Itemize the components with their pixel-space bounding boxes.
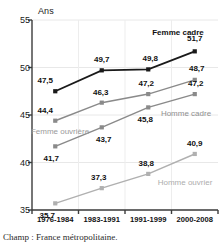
value-label: 37,3 — [91, 173, 107, 182]
series-label-homme-ouvrier: Homme ouvrier — [158, 178, 213, 187]
data-point-marker — [100, 186, 104, 190]
chart-footnote: Champ : France métropolitaine. — [3, 232, 117, 242]
x-axis-tick-1983-1991: 1983-1991 — [84, 215, 120, 224]
data-point-marker — [100, 125, 104, 129]
data-point-marker — [146, 105, 150, 109]
data-point-marker — [53, 89, 57, 93]
value-label: 40,9 — [187, 138, 203, 147]
value-label: 48,7 — [189, 63, 205, 72]
value-label: 43,7 — [96, 135, 112, 144]
data-point-marker — [193, 152, 197, 156]
data-point-marker — [100, 101, 104, 105]
series-label-femme-ouvriere: Femme ouvrière — [31, 127, 89, 136]
value-label: 47,2 — [188, 79, 204, 88]
value-label: 47,5 — [37, 76, 53, 85]
data-point-marker — [146, 92, 150, 96]
y-axis-tick-labels: 3540455055 — [0, 0, 30, 244]
data-point-marker — [193, 92, 197, 96]
value-label: 45,8 — [137, 115, 153, 124]
value-label: 47,2 — [138, 79, 154, 88]
y-axis-tick-55: 55 — [8, 15, 30, 25]
value-label: 46,3 — [93, 87, 109, 96]
x-axis-tick-2000-2008: 2000-2008 — [177, 215, 213, 224]
data-point-marker — [193, 49, 197, 53]
data-point-marker — [146, 67, 150, 71]
value-label: 41,7 — [43, 154, 59, 163]
data-point-marker — [53, 119, 57, 123]
y-axis-tick-40: 40 — [8, 158, 30, 168]
y-axis-tick-35: 35 — [8, 205, 30, 215]
data-point-marker — [53, 201, 57, 205]
value-label: 38,8 — [138, 158, 154, 167]
data-point-marker — [53, 144, 57, 148]
x-axis-tick-1991-1999: 1991-1999 — [130, 215, 166, 224]
value-label: 49,8 — [142, 54, 158, 63]
data-point-marker — [100, 68, 104, 72]
y-axis-tick-50: 50 — [8, 63, 30, 73]
data-point-marker — [146, 172, 150, 176]
series-label-homme-cadre: Homme cadre — [161, 109, 211, 118]
value-label: 49,7 — [94, 55, 110, 64]
value-label: 44,4 — [37, 105, 53, 114]
series-label-femme-cadre: Femme cadre — [152, 28, 204, 37]
y-axis-tick-45: 45 — [8, 110, 30, 120]
line-chart: Ans 3540455055 1976-19841983-19911991-19… — [0, 0, 224, 244]
value-label: 35,7 — [39, 211, 55, 220]
